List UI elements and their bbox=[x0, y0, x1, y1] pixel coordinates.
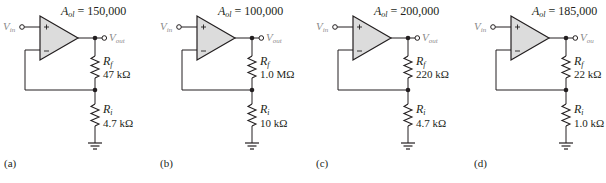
ri-label-d: Ri bbox=[574, 103, 584, 117]
ri-label-b: Ri bbox=[260, 103, 270, 117]
open-loop-gain-c: Aol = 200,000 bbox=[374, 5, 439, 19]
open-loop-gain-a: Aol = 150,000 bbox=[61, 5, 126, 19]
rf-value-c: 220 kΩ bbox=[416, 69, 449, 80]
circuit-a bbox=[20, 16, 107, 149]
open-loop-gain-b: Aol = 100,000 bbox=[218, 5, 283, 19]
circuit-d bbox=[491, 16, 578, 149]
panel-label-a: (a) bbox=[4, 158, 16, 169]
vin-label-b: Vin bbox=[160, 21, 172, 34]
ri-value-b: 10 kΩ bbox=[260, 118, 287, 129]
rf-value-d: 22 kΩ bbox=[574, 69, 601, 80]
vout-label-b: Vout bbox=[266, 32, 282, 45]
open-loop-gain-d: Aol = 185,000 bbox=[532, 5, 597, 19]
ri-value-a: 4.7 kΩ bbox=[103, 118, 133, 129]
panel-label-b: (b) bbox=[160, 158, 173, 169]
rf-value-b: 1.0 MΩ bbox=[260, 69, 294, 80]
panel-label-d: (d) bbox=[474, 158, 487, 169]
vin-label-a: Vin bbox=[3, 21, 15, 34]
rf-value-a: 47 kΩ bbox=[103, 69, 130, 80]
vout-label-c: Vout bbox=[422, 32, 438, 45]
vout-label-d: Vou bbox=[580, 32, 594, 45]
rf-label-a: Rf bbox=[103, 55, 113, 69]
rf-label-c: Rf bbox=[416, 55, 426, 69]
panel-label-c: (c) bbox=[316, 158, 328, 169]
rf-label-d: Rf bbox=[574, 55, 584, 69]
rf-label-b: Rf bbox=[260, 55, 270, 69]
schematic-canvas bbox=[0, 0, 606, 183]
circuit-c bbox=[333, 16, 420, 149]
ri-label-a: Ri bbox=[103, 103, 113, 117]
circuit-b bbox=[177, 16, 264, 149]
vin-label-d: Vin bbox=[474, 21, 486, 34]
vout-label-a: Vout bbox=[109, 32, 125, 45]
ri-value-d: 1.0 kΩ bbox=[574, 118, 604, 129]
vin-label-c: Vin bbox=[316, 21, 328, 34]
ri-label-c: Ri bbox=[416, 103, 426, 117]
ri-value-c: 4.7 kΩ bbox=[416, 118, 446, 129]
